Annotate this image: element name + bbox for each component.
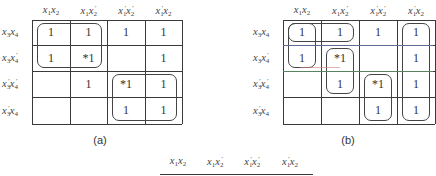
column-label: x1′x2 [408, 5, 424, 18]
row-label: x3x4′ [253, 52, 269, 65]
column-label: x1x2′ [332, 5, 348, 18]
row-label: x3x4 [2, 27, 18, 39]
map-cell [283, 71, 321, 97]
map-cell: 1 [70, 71, 107, 97]
map-cell: 1 [107, 20, 145, 45]
figure-caption: (b) [341, 134, 354, 146]
row-label: x3′x4 [253, 104, 269, 117]
grouping-loop [364, 74, 392, 121]
scan-artifact-line [283, 45, 433, 46]
row-label: x3′x4 [2, 104, 18, 117]
map-cell: 1 [145, 20, 182, 45]
row-label: x3x4′ [2, 52, 18, 65]
column-label: x1′x2′ [244, 156, 259, 169]
grid-line [182, 20, 183, 124]
scan-artifact-line [300, 67, 340, 68]
column-label: x1x2′ [81, 5, 97, 18]
map-cell [32, 71, 70, 97]
map-cell [283, 97, 321, 124]
grid-line [283, 124, 435, 125]
column-label: x1x2′ [207, 156, 223, 169]
grouping-loop [402, 23, 430, 121]
column-label: x1x2 [294, 5, 310, 17]
column-label: x1′x2 [156, 5, 172, 18]
column-label: x1x2 [170, 156, 186, 168]
map-cell [107, 45, 145, 71]
column-label: x1′x2′ [370, 5, 385, 18]
scan-artifact-line [283, 71, 433, 72]
map-cell [359, 45, 397, 71]
map-cell [70, 97, 107, 124]
row-label: x3′x4′ [2, 78, 17, 91]
map-cell: 1 [145, 45, 182, 71]
row-label: x3x4 [253, 27, 269, 39]
grouping-loop [112, 74, 177, 121]
column-label: x1x2 [43, 5, 59, 17]
grid-line [160, 174, 313, 175]
row-label: x3′x4′ [253, 78, 268, 91]
column-label: x1′x2′ [118, 5, 133, 18]
column-label: x1′x2 [282, 156, 298, 169]
map-cell [32, 97, 70, 124]
grid-line [32, 124, 182, 125]
grouping-loop [37, 23, 102, 68]
map-cell [321, 97, 359, 124]
figure-caption: (a) [93, 134, 106, 146]
map-cell: 1 [359, 20, 397, 45]
